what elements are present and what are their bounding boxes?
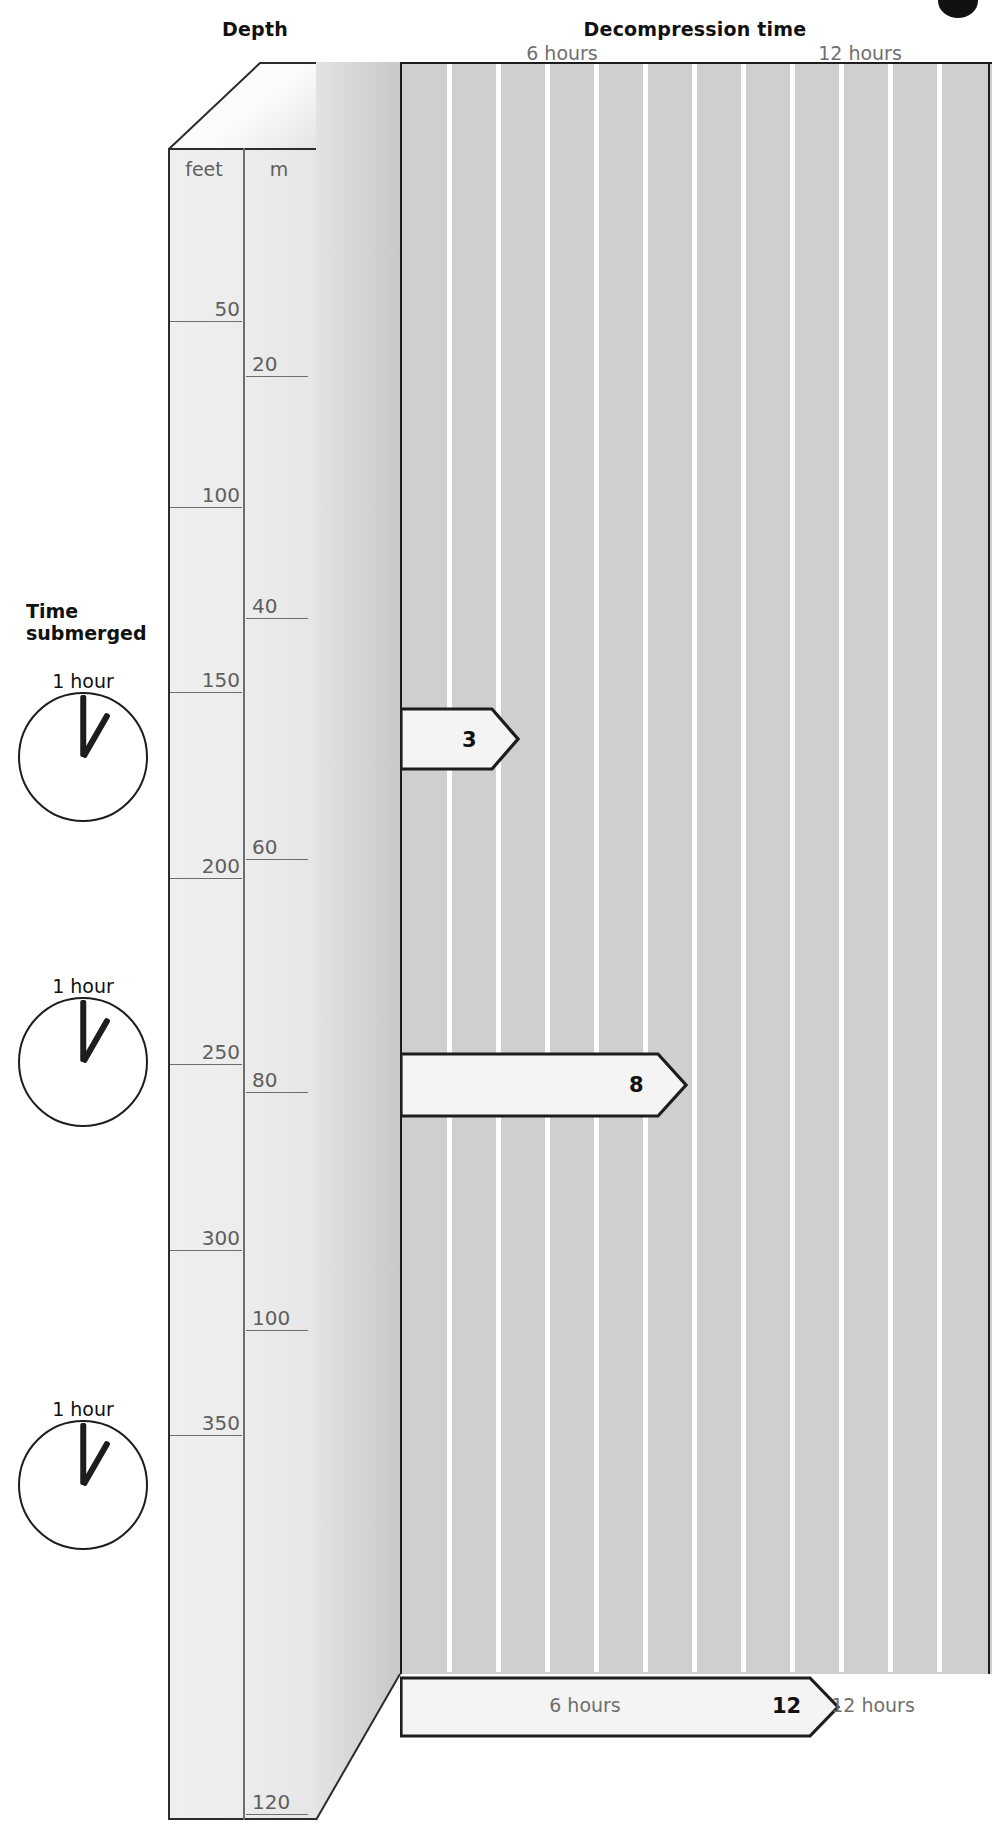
depth-tick-meters: 120 — [246, 1790, 308, 1815]
depth-tick-meters: 40 — [246, 594, 308, 619]
unit-label-feet: feet — [168, 158, 240, 180]
time-submerged-title-line2: submerged — [26, 622, 186, 644]
time-submerged-title: Time submerged — [26, 600, 186, 645]
depth-tick-feet: 250 — [170, 1040, 242, 1065]
time-submerged-title-line1: Time — [26, 600, 186, 622]
clock-label-3: 1 hour — [8, 1398, 158, 1420]
bottom-axis-tick-12-hours: 12 hours — [758, 1694, 988, 1716]
depth-tick-feet: 100 — [170, 483, 242, 508]
depth-tick-meters: 80 — [246, 1068, 308, 1093]
bottom-axis-tick-6-hours: 6 hours — [475, 1694, 695, 1716]
top-axis-tick-6-hours: 6 hours — [452, 42, 672, 64]
gridline — [790, 64, 795, 1672]
decompression-bar-2[interactable]: 8 — [400, 1052, 688, 1122]
gridline — [937, 64, 942, 1672]
unit-label-meters: m — [247, 158, 311, 180]
clock-group-1: 1 hour — [8, 670, 158, 822]
bar-value-label-2: 8 — [629, 1073, 644, 1097]
gridline — [692, 64, 697, 1672]
gridline — [447, 64, 452, 1672]
gridline — [839, 64, 844, 1672]
gridline — [496, 64, 501, 1672]
gridline — [888, 64, 893, 1672]
depth-tick-feet: 200 — [170, 854, 242, 879]
clock-face-icon-2 — [18, 997, 148, 1127]
clock-group-3: 1 hour — [8, 1398, 158, 1550]
depth-scale-column — [168, 148, 316, 1820]
decompression-bar-1[interactable]: 3 — [400, 707, 520, 775]
depth-heading: Depth — [185, 18, 325, 40]
depth-tick-meters: 100 — [246, 1306, 308, 1331]
depth-tick-meters: 20 — [246, 352, 308, 377]
gridline — [643, 64, 648, 1672]
gridline — [594, 64, 599, 1672]
depth-scale-unit-divider — [243, 148, 245, 1820]
chart-right-border — [988, 62, 990, 1674]
bar-value-label-1: 3 — [462, 728, 477, 752]
clock-face-icon-3 — [18, 1420, 148, 1550]
slab-side-face — [316, 62, 402, 1822]
depth-tick-feet: 350 — [170, 1411, 242, 1436]
depth-tick-feet: 300 — [170, 1226, 242, 1251]
title-bullet-icon — [938, 0, 978, 18]
clock-label-2: 1 hour — [8, 975, 158, 997]
gridline — [741, 64, 746, 1672]
depth-tick-feet: 150 — [170, 668, 242, 693]
depth-tick-meters: 60 — [246, 835, 308, 860]
gridline — [545, 64, 550, 1672]
top-axis-tick-12-hours: 12 hours — [730, 42, 990, 64]
clock-group-2: 1 hour — [8, 975, 158, 1127]
clock-face-icon-1 — [18, 692, 148, 822]
decompression-time-heading: Decompression time — [400, 18, 990, 40]
depth-tick-feet: 50 — [170, 297, 242, 322]
clock-label-1: 1 hour — [8, 670, 158, 692]
